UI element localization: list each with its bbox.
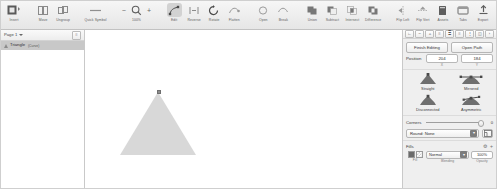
corners-slider[interactable] <box>426 119 483 126</box>
toolbar-button-move[interactable]: Move <box>33 1 53 29</box>
toolbar-button-flatten[interactable]: Flatten <box>224 1 244 29</box>
position-label: Position <box>406 54 423 61</box>
blending-value: Normal <box>429 152 442 157</box>
insert-icon <box>7 3 22 17</box>
fill-settings-icon[interactable]: ⚙ <box>483 144 487 149</box>
magnifier-icon[interactable] <box>129 3 144 17</box>
toolbar-button-reverse[interactable]: Reverse <box>184 1 204 29</box>
toolbar-button-break[interactable]: Break <box>273 1 293 29</box>
distribute-icon[interactable]: ⋮ <box>465 30 474 38</box>
affinity-designer-window: Insert Move Ungroup Quick Symbol − <box>0 0 497 189</box>
align-right-icon[interactable]: ≡ <box>455 30 464 38</box>
toolbar-button-insert[interactable]: Insert <box>4 1 24 29</box>
chevron-down-icon <box>19 34 23 36</box>
position-y-caption: Y <box>476 63 478 67</box>
toolbar-button-flip-vert[interactable]: Flip Vert <box>413 1 433 29</box>
fill-color-swatch[interactable] <box>408 151 415 158</box>
flip-left-icon <box>395 3 410 17</box>
toolbar-label: Export <box>478 18 488 23</box>
toolbar-label: Edit <box>171 18 177 23</box>
layer-name-label: Triangle <box>10 43 25 47</box>
reverse-icon <box>187 3 202 17</box>
toolbar-button-flip-left[interactable]: Flip Left <box>393 1 413 29</box>
page-selector[interactable]: Page 1 <box>4 33 23 37</box>
page-selector-label: Page 1 <box>4 33 17 37</box>
toolbar-label: Intersect <box>345 18 359 23</box>
difference-icon <box>366 3 381 17</box>
position-y-input[interactable]: 184 <box>461 54 493 63</box>
more-icon[interactable]: › <box>485 30 494 38</box>
toolbar-button-tabs[interactable]: Tabs <box>453 1 473 29</box>
subtract-icon <box>325 3 340 17</box>
align-center-icon[interactable]: ≣ <box>445 30 454 38</box>
toolbar-button-union[interactable]: Union <box>302 1 322 29</box>
fill-add-icon[interactable]: + <box>490 144 493 149</box>
zoom-out-icon[interactable]: − <box>122 7 126 14</box>
corners-label: Corners <box>406 120 423 125</box>
finish-editing-button[interactable]: Finish Editing <box>406 42 448 53</box>
node-type-asymmetric-button[interactable]: Asymmetric <box>451 94 493 112</box>
toolbar-label: Subtract <box>326 18 339 23</box>
toolbar-separator <box>244 1 253 29</box>
transform-icon[interactable]: ◫ <box>475 30 484 38</box>
blending-group[interactable]: Normal ▾ Blending <box>426 151 469 164</box>
toolbar-label: Flip Left <box>396 18 409 23</box>
node-smart-icon[interactable]: ▵ <box>425 30 434 38</box>
toolbar-separator <box>293 1 302 29</box>
node-type-label: Asymmetric <box>461 107 481 112</box>
zoom-in-icon[interactable]: + <box>147 7 151 14</box>
corner-style-select[interactable]: Round: None ▾ <box>406 129 479 138</box>
toolbar-label: Quick Symbol <box>84 18 106 23</box>
move-icon <box>36 3 51 17</box>
ungroup-icon <box>56 3 71 17</box>
layer-item-triangle[interactable]: Triangle (Curve) <box>1 41 84 50</box>
toolbar-button-intersect[interactable]: Intersect <box>342 1 362 29</box>
triangle-shape-icon <box>4 44 8 48</box>
corners-slider-knob[interactable] <box>478 120 485 127</box>
open-path-button[interactable]: Open Path <box>451 42 493 53</box>
toolbar-button-difference[interactable]: Difference <box>362 1 383 29</box>
toolbar-label: Reverse <box>187 18 200 23</box>
fill-alpha-swatch[interactable] <box>416 151 423 158</box>
toolbar-button-subtract[interactable]: Subtract <box>322 1 342 29</box>
toolbar-label: Union <box>308 18 317 23</box>
toolbar-button-quick-symbol[interactable]: Quick Symbol <box>82 1 109 29</box>
toolbar-label: Insert <box>9 18 18 23</box>
corners-value: 0 <box>486 120 493 125</box>
node-type-disconnected-button[interactable]: Disconnected <box>407 94 449 112</box>
blending-select[interactable]: Normal ▾ <box>426 151 469 159</box>
canvas-area[interactable] <box>85 30 402 188</box>
node-type-straight-button[interactable]: Straight <box>407 73 449 91</box>
triangle-shape[interactable] <box>120 92 196 155</box>
node-type-mirrored-button[interactable]: Mirrored <box>451 73 493 91</box>
page-menu-button[interactable]: ≡ <box>72 31 81 40</box>
node-handle-apex[interactable] <box>157 90 161 94</box>
toolbar-button-open[interactable]: Open <box>253 1 273 29</box>
toolbar-button-export[interactable]: Export <box>473 1 493 29</box>
node-type-label: Disconnected <box>416 107 440 112</box>
zoom-level-label: 100% <box>132 18 141 23</box>
toolbar-button-assets[interactable]: Assets <box>433 1 453 29</box>
export-icon <box>476 3 491 17</box>
layers-list: Triangle (Curve) <box>1 41 84 188</box>
toolbar-button-ungroup[interactable]: Ungroup <box>53 1 73 29</box>
assets-icon <box>435 3 450 17</box>
fill-swatch-group[interactable]: Fill <box>406 151 424 163</box>
opacity-group[interactable]: 100% Opacity <box>471 151 493 164</box>
toolbar-separator <box>155 1 164 29</box>
position-x-input[interactable]: 204 <box>426 54 458 63</box>
toolbar-button-rotate[interactable]: Rotate <box>204 1 224 29</box>
node-smooth-icon[interactable]: ∼ <box>415 30 424 38</box>
toolbar-zoom-control[interactable]: − + 100% <box>118 1 155 29</box>
artboard[interactable] <box>85 30 402 188</box>
node-sharp-icon[interactable]: ∟ <box>405 30 414 38</box>
opacity-input[interactable]: 100% <box>471 151 493 159</box>
toolbar-label: Move <box>39 18 48 23</box>
layer-type-badge: (Curve) <box>28 44 39 48</box>
tabs-icon <box>456 3 471 17</box>
align-left-icon[interactable]: ≡ <box>435 30 444 38</box>
toolbar-button-edit[interactable]: Edit <box>164 1 184 29</box>
fills-section: Fills ⚙ + Fill <box>403 141 496 166</box>
context-panel: ∟ ∼ ▵ ≡ ≣ ≡ ⋮ ◫ › Finish Editing Open Pa… <box>402 30 496 188</box>
corner-apply-button[interactable] <box>482 129 493 138</box>
